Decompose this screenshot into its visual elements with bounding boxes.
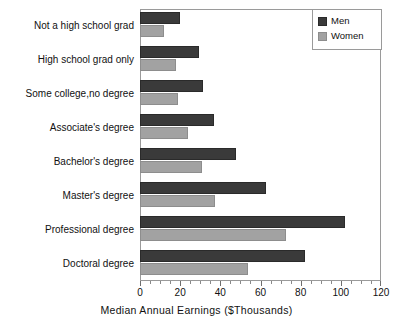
bar-women [140,59,176,71]
bar-men [140,80,203,92]
x-tick-label: 120 [373,287,390,299]
x-tick-label: 60 [255,287,266,299]
x-tick-minor [281,281,282,284]
y-axis-label: Bachelor's degree [0,156,134,167]
bar-women [140,195,215,207]
bar-men [140,148,236,160]
x-tick-minor [170,281,171,284]
x-tick-minor [160,281,161,284]
x-tick-label: 40 [215,287,226,299]
legend-label-women: Women [331,31,364,41]
x-tick-minor [321,281,322,284]
legend-label-men: Men [331,16,349,26]
x-tick-major [380,281,381,286]
x-tick-major [220,281,221,286]
x-tick-minor [240,281,241,284]
x-tick-minor [271,281,272,284]
x-tick-minor [371,281,372,284]
x-tick-minor [210,281,211,284]
x-axis-title: Median Annual Earnings ($Thousands) [0,304,393,316]
bar-women [140,161,202,173]
y-axis-category-labels: Not a high school gradHigh school grad o… [0,9,134,281]
x-tick-major [180,281,181,286]
x-tick-minor [230,281,231,284]
x-axis-tick-labels: 020406080100120 [140,287,381,301]
x-tick-minor [190,281,191,284]
bar-men [140,114,214,126]
x-tick-minor [361,281,362,284]
bar-group [140,247,381,281]
bar-women [140,127,188,139]
bar-men [140,182,266,194]
y-axis-label: Some college,no degree [0,88,134,99]
x-tick-label: 80 [295,287,306,299]
bar-group [140,145,381,179]
bar-women [140,93,178,105]
bar-men [140,46,199,58]
x-tick-minor [331,281,332,284]
x-tick-minor [311,281,312,284]
y-axis-label: Not a high school grad [0,20,134,31]
bar-group [140,179,381,213]
bar-group [140,111,381,145]
y-axis-label: Master's degree [0,190,134,201]
bar-women [140,25,164,37]
y-axis-label: Professional degree [0,224,134,235]
bar-women [140,229,286,241]
y-axis-label: High school grad only [0,54,134,65]
y-axis-label: Doctoral degree [0,258,134,269]
x-tick-major [301,281,302,286]
x-tick-major [261,281,262,286]
legend-swatch-men-icon [318,17,327,26]
bar-men [140,250,305,262]
y-axis-label: Associate's degree [0,122,134,133]
bar-men [140,216,345,228]
x-tick-label: 100 [332,287,349,299]
bar-women [140,263,248,275]
x-tick-major [140,281,141,286]
x-tick-minor [200,281,201,284]
x-tick-minor [351,281,352,284]
x-tick-minor [250,281,251,284]
x-tick-minor [150,281,151,284]
bar-chart: Not a high school gradHigh school grad o… [0,0,393,329]
x-tick-label: 20 [175,287,186,299]
x-tick-minor [291,281,292,284]
bar-group [140,213,381,247]
legend-item-women[interactable]: Women [318,29,376,43]
x-tick-label: 0 [137,287,143,299]
legend-swatch-women-icon [318,32,327,41]
x-tick-major [341,281,342,286]
legend: Men Women [312,9,382,50]
bar-men [140,12,180,24]
legend-item-men[interactable]: Men [318,14,376,28]
bar-group [140,77,381,111]
